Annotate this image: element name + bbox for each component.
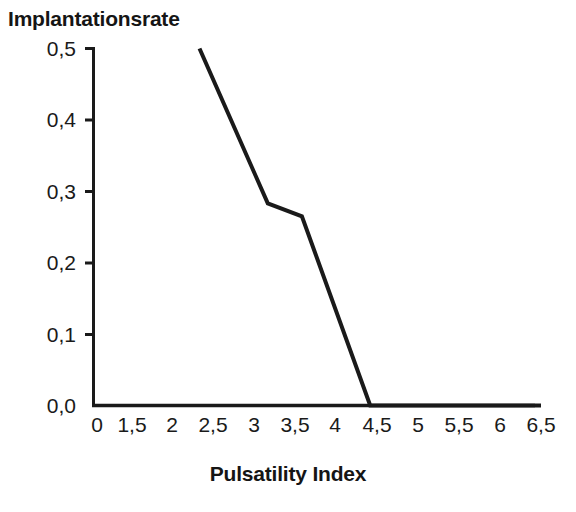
y-axis-tick-label: 0,3 [8, 181, 76, 202]
chart-container: Implantationsrate 0,5 0,4 0,3 0,2 0,1 0,… [0, 0, 576, 512]
x-axis-tick-label: 2,5 [198, 414, 227, 435]
y-axis-tick-label: 0,1 [8, 324, 76, 345]
x-axis-tick-label: 1,5 [117, 414, 146, 435]
x-axis-tick-label: 3,5 [280, 414, 309, 435]
x-axis-tick-label: 5,5 [444, 414, 473, 435]
x-axis-tick-label: 5 [412, 414, 424, 435]
x-axis-tick-label: 2 [166, 414, 178, 435]
y-axis-tick-label: 0,0 [8, 395, 76, 416]
x-axis-tick-label: 6,5 [526, 414, 555, 435]
x-axis-tick-label: 4 [329, 414, 341, 435]
x-axis-tick-label: 3 [248, 414, 260, 435]
y-axis-tick-label: 0,5 [8, 38, 76, 59]
y-axis-tick-label: 0,4 [8, 109, 76, 130]
x-axis-tick-label: 4,5 [362, 414, 391, 435]
x-axis-tick-label: 6 [494, 414, 506, 435]
x-axis-title: Pulsatility Index [0, 462, 576, 486]
data-line-implantationsrate [200, 49, 542, 406]
x-axis-tick-label: 0 [91, 414, 103, 435]
y-axis-tick-label: 0,2 [8, 252, 76, 273]
